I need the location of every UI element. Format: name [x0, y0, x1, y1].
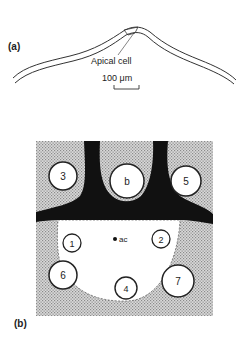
circle-6: 6: [49, 261, 77, 289]
svg-text:4: 4: [123, 284, 128, 294]
scale-bar-label: 100 μm: [102, 73, 132, 83]
apical-cell-dot: [113, 237, 117, 241]
scale-bar: [114, 85, 139, 89]
panel-a-label: (a): [8, 41, 20, 52]
panel-a: (a) Apical cell 100 μm: [8, 27, 236, 89]
apical-cell-label: Apical cell: [91, 56, 132, 66]
circle-2: 2: [152, 230, 170, 248]
ac-label: ac: [119, 235, 127, 244]
svg-text:6: 6: [60, 270, 66, 281]
svg-text:5: 5: [183, 176, 189, 187]
circle-1: 1: [63, 234, 81, 252]
circle-7: 7: [162, 265, 194, 297]
apical-cell: [124, 27, 138, 35]
circle-4: 4: [115, 277, 137, 299]
circle-3: 3: [49, 162, 77, 190]
panel-b-label: (b): [14, 318, 27, 329]
svg-text:b: b: [124, 176, 130, 187]
svg-text:3: 3: [60, 171, 66, 182]
svg-text:7: 7: [175, 276, 181, 287]
circle-5: 5: [171, 166, 201, 196]
diagram: (a) Apical cell 100 μm 3 b 5: [0, 0, 248, 338]
svg-text:2: 2: [158, 235, 163, 245]
panel-b: 3 b 5 1 2 6 4 7 ac: [14, 141, 213, 329]
svg-text:1: 1: [69, 239, 74, 249]
callout-line: [118, 33, 134, 55]
circle-b: b: [110, 164, 144, 198]
